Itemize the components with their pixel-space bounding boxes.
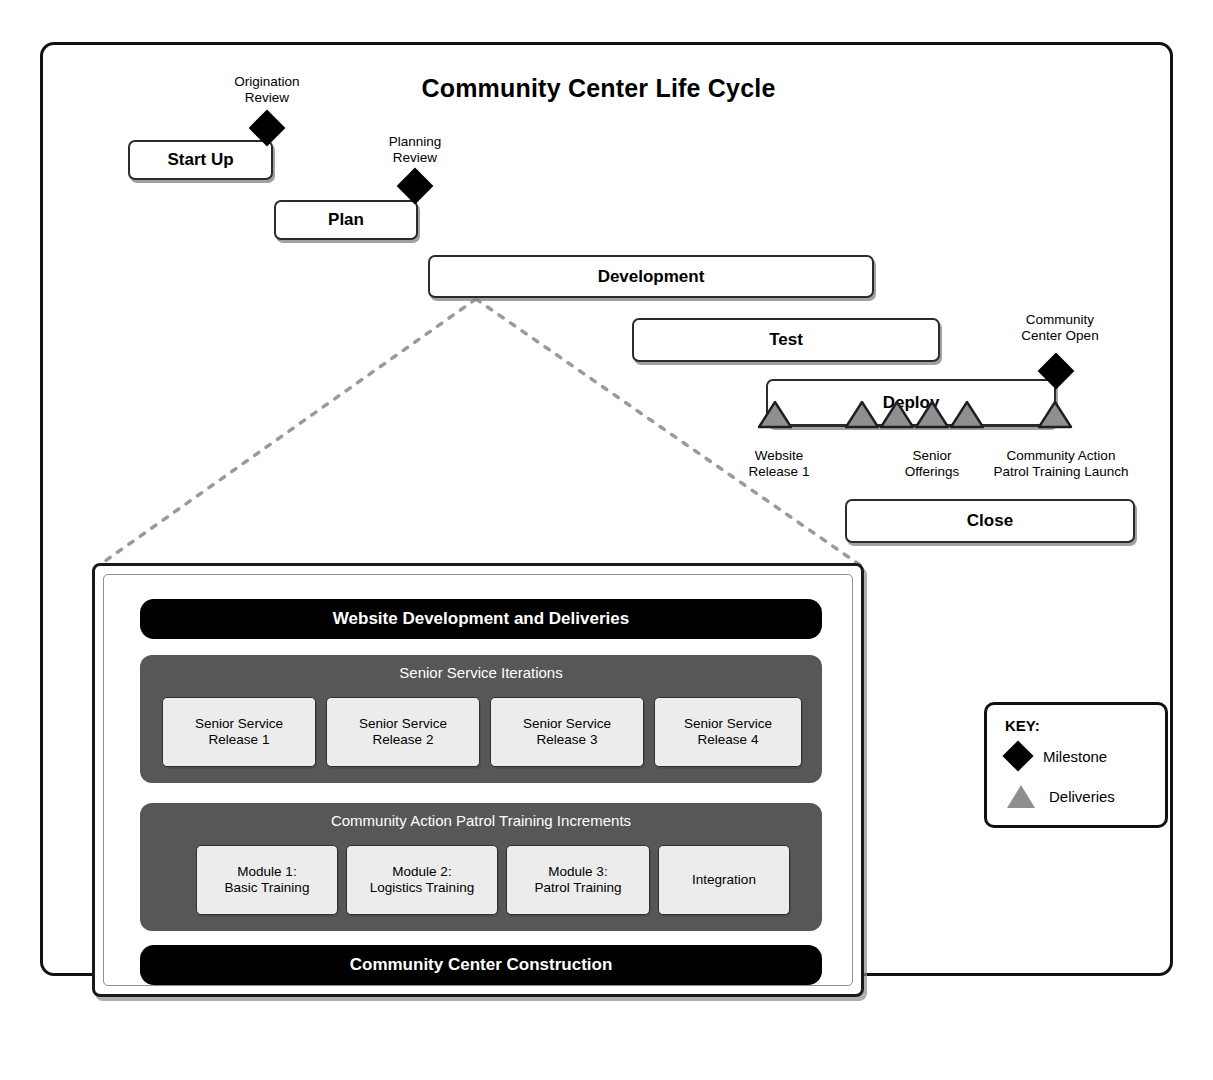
- chip-integration[interactable]: Integration: [658, 845, 790, 915]
- group-senior-service-title: Senior Service Iterations: [140, 664, 822, 681]
- phase-bar-close[interactable]: Close: [845, 499, 1135, 543]
- key-deliveries-label: Deliveries: [1049, 788, 1115, 805]
- chip-senior-release-4[interactable]: Senior Service Release 4: [654, 697, 802, 767]
- delivery-label: Community Action Patrol Training Launch: [951, 448, 1171, 480]
- phase-bar-test[interactable]: Test: [632, 318, 940, 362]
- chip-senior-release-1[interactable]: Senior Service Release 1: [162, 697, 316, 767]
- delivery-triangle-icon: [757, 400, 793, 429]
- diagram-canvas: Community Center Life Cycle Start UpPlan…: [0, 0, 1213, 1080]
- key-legend: KEY: Milestone Deliveries: [984, 702, 1168, 828]
- key-row-milestone: Milestone: [1007, 745, 1107, 767]
- band-website-development: Website Development and Deliveries: [140, 599, 822, 639]
- band-community-center-construction: Community Center Construction: [140, 945, 822, 985]
- key-row-deliveries: Deliveries: [1007, 785, 1115, 808]
- key-title: KEY:: [1005, 717, 1040, 734]
- chip-module-1[interactable]: Module 1: Basic Training: [196, 845, 338, 915]
- phase-bar-plan[interactable]: Plan: [274, 200, 418, 240]
- delivery-triangle-icon: [914, 400, 950, 429]
- group-senior-service: Senior Service Iterations Senior Service…: [140, 655, 822, 783]
- detail-panel-inner: Website Development and Deliveries Senio…: [103, 574, 853, 986]
- chip-senior-release-2[interactable]: Senior Service Release 2: [326, 697, 480, 767]
- chip-module-2[interactable]: Module 2: Logistics Training: [346, 845, 498, 915]
- milestone-diamond-icon: [1002, 740, 1033, 771]
- chip-senior-release-3[interactable]: Senior Service Release 3: [490, 697, 644, 767]
- delivery-triangle-icon: [879, 400, 915, 429]
- phase-bar-development[interactable]: Development: [428, 255, 874, 298]
- phase-bar-start-up[interactable]: Start Up: [128, 140, 273, 180]
- delivery-triangle-icon: [844, 400, 880, 429]
- chip-module-3[interactable]: Module 3: Patrol Training: [506, 845, 650, 915]
- delivery-triangle-icon: [1037, 400, 1073, 429]
- delivery-triangle-icon: [949, 400, 985, 429]
- detail-panel: Website Development and Deliveries Senio…: [92, 563, 864, 997]
- milestone-label: Planning Review: [325, 134, 505, 166]
- group-patrol-training-title: Community Action Patrol Training Increme…: [140, 812, 822, 829]
- delivery-triangle-icon: [1007, 785, 1035, 808]
- group-patrol-training: Community Action Patrol Training Increme…: [140, 803, 822, 931]
- milestone-label: Origination Review: [177, 74, 357, 106]
- key-milestone-label: Milestone: [1043, 748, 1107, 765]
- milestone-label: Community Center Open: [970, 312, 1150, 344]
